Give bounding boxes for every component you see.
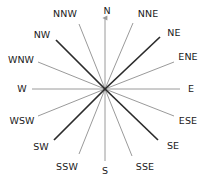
direction-label-n: N [103,6,110,16]
direction-label-s: S [102,166,108,176]
compass-ray-wnw [38,62,105,89]
compass-ray-wsw [38,89,105,116]
direction-label-w: W [17,84,27,94]
compass-ray-ene [105,62,174,89]
direction-label-wsw: WSW [9,116,34,126]
compass-ray-ssw [79,89,105,154]
compass-ray-se [105,89,158,140]
direction-label-nnw: NNW [53,9,77,19]
direction-label-ssw: SSW [56,162,78,172]
compass-ray-nnw [79,24,105,89]
compass-ray-nne [105,23,133,89]
compass-ray-sw [54,89,105,140]
rays-group [32,18,180,161]
compass-ray-sse [105,89,132,156]
direction-label-ene: ENE [178,52,197,62]
direction-label-sse: SSE [136,162,154,172]
direction-label-wnw: WNW [8,55,34,65]
compass-ray-ne [105,37,160,89]
compass-ray-nw [56,40,105,89]
direction-label-ne: NE [167,28,180,38]
compass-rose-diagram: NNNENEENEEESESESSESSSWSWWSWWWNWNWNNW [0,0,208,179]
direction-label-nne: NNE [138,9,159,19]
direction-label-sw: SW [33,142,49,152]
direction-label-e: E [188,84,194,94]
direction-label-se: SE [167,141,179,151]
compass-ray-ese [105,89,174,116]
direction-label-nw: NW [34,30,51,40]
direction-label-ese: ESE [179,116,197,126]
